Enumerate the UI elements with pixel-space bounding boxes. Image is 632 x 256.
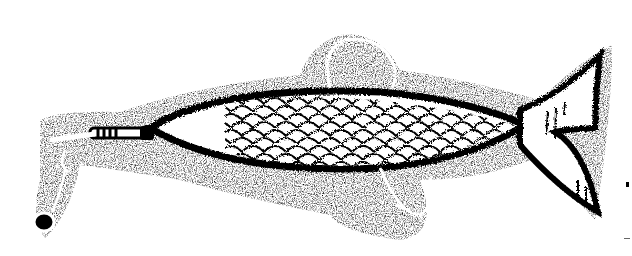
edge-specks — [624, 182, 630, 239]
lure-drawing — [0, 0, 632, 256]
nose-wrap — [90, 126, 154, 140]
lure-illustration — [0, 0, 632, 256]
